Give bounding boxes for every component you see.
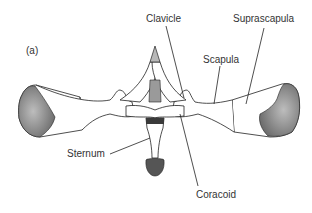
sternum-leader bbox=[110, 138, 150, 154]
coracoid-leader bbox=[180, 114, 198, 186]
sternum bbox=[146, 118, 164, 176]
coracoid-label: Coracoid bbox=[196, 190, 236, 200]
scapula-label: Scapula bbox=[203, 55, 239, 65]
scapula-leader bbox=[214, 66, 220, 104]
anatomy-figure: (a) Clavicle Suprascapula Scapula Sternu… bbox=[0, 0, 312, 213]
girdle-drawing bbox=[0, 0, 312, 213]
sternum-label: Sternum bbox=[67, 149, 105, 159]
panel-label: (a) bbox=[26, 46, 38, 56]
clavicle-coracoid-complex bbox=[120, 46, 186, 118]
suprascapula-label: Suprascapula bbox=[233, 14, 294, 24]
right-suprascapula bbox=[232, 84, 300, 137]
clavicle-label: Clavicle bbox=[146, 14, 181, 24]
